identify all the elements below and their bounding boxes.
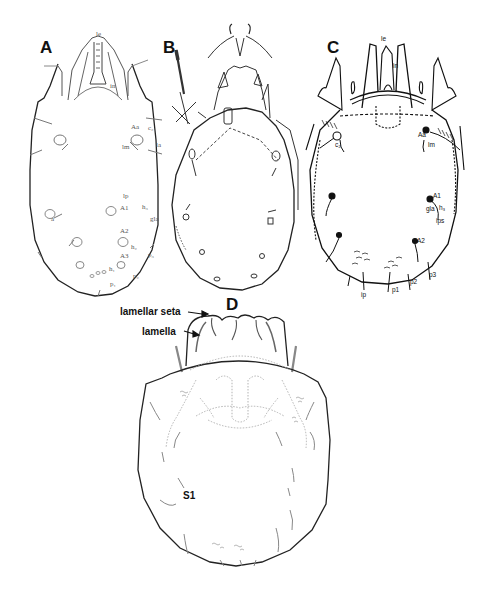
- label-c-le: le: [381, 36, 386, 43]
- panel-letter-d: D: [226, 295, 238, 315]
- label-a-a: a: [51, 216, 54, 223]
- label-c-ips: ips: [436, 218, 444, 225]
- label-a-p3: p₃: [148, 252, 154, 259]
- label-c-h3: h₃: [439, 205, 445, 212]
- figure-drawings: [0, 0, 486, 592]
- label-a-lp: lp: [123, 193, 128, 200]
- label-c-ip: ip: [361, 292, 366, 299]
- label-a-in: in: [110, 83, 115, 90]
- label-c-gla: gla: [426, 206, 435, 213]
- label-a-c2: c₂: [148, 125, 154, 132]
- panel-c-drawing: [306, 44, 464, 292]
- panel-a-drawing: [30, 36, 162, 296]
- label-c-A2: A2: [417, 238, 425, 245]
- panel-letter-b: B: [163, 38, 175, 58]
- label-a-h1: h₁: [109, 266, 115, 273]
- label-a-gla: gla: [150, 216, 159, 223]
- label-a-A3: A3: [120, 253, 129, 260]
- panel-b-drawing: [172, 24, 298, 290]
- label-a-la: la: [156, 142, 161, 149]
- label-c-p1: p1: [392, 287, 399, 294]
- label-a-A2: A2: [120, 228, 129, 235]
- label-a-lm: lm: [122, 144, 129, 151]
- label-a-p1: p₁: [110, 281, 116, 288]
- callout-lamella: lamella: [142, 326, 176, 337]
- label-c-Aa: Aa: [418, 132, 426, 139]
- label-c-lm: lm: [428, 142, 435, 149]
- panel-d-drawing: [138, 315, 330, 566]
- label-c-p2: p2: [410, 279, 417, 286]
- label-c-c2: c₂: [335, 142, 341, 149]
- label-c-p3: p3: [429, 272, 436, 279]
- label-a-h3: h₃: [142, 204, 148, 211]
- label-a-A1: A1: [120, 205, 129, 212]
- label-a-Aa: Aa: [131, 124, 139, 131]
- callout-s1: S1: [183, 490, 195, 501]
- label-c-in: in: [393, 63, 398, 70]
- callout-lamellar-seta: lamellar seta: [120, 306, 181, 317]
- panel-letter-c: C: [327, 38, 339, 58]
- label-c-A1: A1: [433, 193, 441, 200]
- label-a-le: le: [96, 31, 101, 38]
- label-a-p2: p₂: [133, 273, 139, 280]
- panel-letter-a: A: [40, 38, 52, 58]
- label-a-h2: h₂: [131, 244, 137, 251]
